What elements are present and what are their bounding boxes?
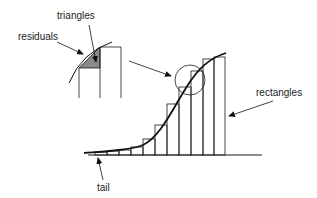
- magnifier-connector: [129, 61, 171, 76]
- label-tail: tail: [97, 183, 110, 193]
- label-triangles: triangles: [57, 11, 95, 21]
- rectangles-arrow: [229, 101, 273, 116]
- riemann-sum-diagram: [0, 0, 317, 198]
- magnifier-circle: [175, 65, 205, 95]
- label-rectangles: rectangles: [256, 88, 302, 98]
- inset-magnified-view: [69, 42, 121, 98]
- residuals-arrow: [57, 42, 83, 54]
- label-residuals: residuals: [18, 32, 58, 42]
- shaded-triangle: [79, 47, 100, 68]
- tail-arrow: [98, 158, 103, 180]
